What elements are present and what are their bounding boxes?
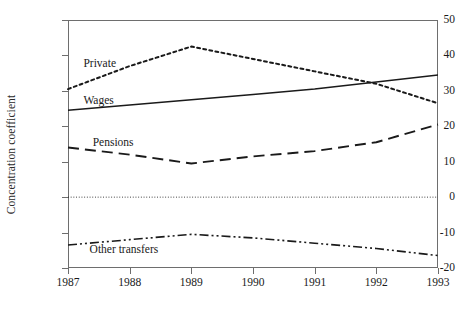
x-tick-label: 1993 (408, 276, 460, 288)
series-label-other-transfers: Other transfers (90, 243, 159, 255)
x-tick-mark (438, 268, 439, 274)
x-tick-mark (376, 268, 377, 274)
x-tick-mark (315, 268, 316, 274)
x-tick-label: 1990 (223, 276, 283, 288)
x-tick-label: 1992 (346, 276, 406, 288)
x-tick-mark (191, 268, 192, 274)
x-tick-mark (253, 268, 254, 274)
x-tick-label: 1989 (161, 276, 221, 288)
x-tick-label: 1991 (285, 276, 345, 288)
x-tick-mark (130, 268, 131, 274)
x-tick-label: 1988 (100, 276, 160, 288)
x-tick-mark (68, 268, 69, 274)
series-label-private: Private (83, 57, 116, 69)
y-axis-title: Concentration coefficient (0, 0, 22, 309)
x-tick-label: 1987 (38, 276, 98, 288)
series-line-wages (68, 75, 438, 110)
series-label-pensions: Pensions (93, 136, 134, 148)
series-label-wages: Wages (83, 94, 113, 106)
